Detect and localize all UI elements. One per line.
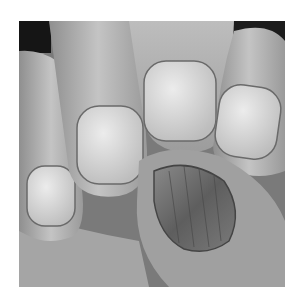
nail-index xyxy=(77,106,143,184)
fingers-photo xyxy=(19,21,285,287)
nail-left xyxy=(27,166,75,226)
dark-corner-shadow xyxy=(19,21,51,53)
photo-frame xyxy=(19,21,285,287)
nail-right xyxy=(212,82,283,162)
nail-middle xyxy=(144,61,216,141)
